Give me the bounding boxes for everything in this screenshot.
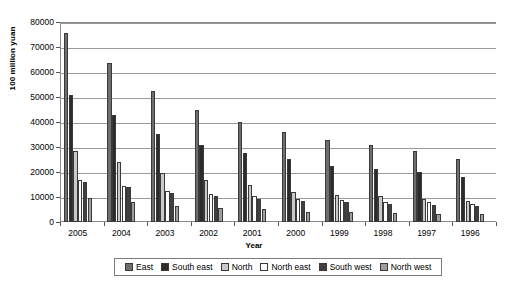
legend-swatch-icon [260,263,268,271]
bar-north-2002 [204,180,208,222]
bar-south-east-2003 [156,134,160,222]
legend-swatch-icon [161,263,169,271]
bar-north-west-1999 [349,212,353,222]
legend-item-south-east[interactable]: South east [161,262,213,272]
bar-south-east-2002 [199,145,203,222]
bar-south-west-2002 [214,196,218,222]
bar-north-east-1999 [340,200,344,222]
legend-label: North [232,262,253,272]
legend-swatch-icon [125,263,133,271]
bar-south-east-1996 [461,177,465,222]
bar-east-2002 [195,110,199,222]
legend-swatch-icon [380,263,388,271]
x-tick-label: 2003 [156,228,175,238]
bar-south-west-2001 [257,199,261,223]
bar-north-west-1996 [480,214,484,222]
legend-label: South east [172,262,213,272]
bar-north-east-2005 [78,180,82,223]
bar-north-east-2002 [209,194,213,223]
bar-north-west-1998 [393,213,397,222]
bar-north-west-2004 [131,202,135,222]
x-tick-label: 1997 [417,228,436,238]
legend-swatch-icon [319,263,327,271]
bar-south-east-2004 [112,115,116,222]
legend-item-north[interactable]: North [221,262,253,272]
x-tick-mark [234,222,235,226]
bar-south-east-1997 [417,172,421,223]
bar-chart: 100 million yuan 80000700006000050000400… [0,0,508,291]
bar-south-east-1998 [374,169,378,223]
x-tick-label: 2002 [199,228,218,238]
bar-north-2004 [117,162,121,223]
x-tick-label: 2001 [243,228,262,238]
x-tick-mark [60,222,61,226]
bar-south-east-1999 [330,166,334,222]
x-tick-label: 2000 [286,228,305,238]
x-tick-label: 2005 [68,228,87,238]
bar-east-2005 [64,33,68,222]
chart-legend: EastSouth eastNorthNorth eastSouth westN… [114,258,442,276]
bar-north-east-1998 [383,202,387,222]
bar-south-west-2003 [170,193,174,222]
x-tick-mark [278,222,279,226]
x-axis-title: Year [0,241,508,250]
bar-north-1998 [378,196,382,222]
bar-north-2003 [160,173,164,222]
y-tick-label: 50000 [10,93,54,101]
bar-north-2000 [291,192,295,222]
bar-north-east-2000 [296,199,300,223]
bar-north-west-2001 [262,209,266,222]
bar-north-east-2004 [122,186,126,222]
bar-north-2005 [73,151,77,222]
y-tick-label: 0 [10,218,54,226]
legend-label: North east [271,262,310,272]
bar-east-2004 [107,63,111,222]
y-tick-label: 10000 [10,193,54,201]
legend-label: East [136,262,153,272]
x-tick-mark [496,222,497,226]
legend-item-east[interactable]: East [125,262,153,272]
legend-label: South west [330,262,372,272]
bar-east-1999 [325,140,329,223]
x-tick-mark [452,222,453,226]
bar-north-1997 [422,199,426,222]
bar-south-west-2004 [126,187,130,222]
bar-north-2001 [248,185,252,222]
x-tick-label: 1999 [330,228,349,238]
bar-south-west-1997 [432,205,436,223]
bar-north-east-2003 [165,191,169,222]
bar-east-2003 [151,91,155,222]
bar-north-east-1997 [427,202,431,222]
bar-south-west-2000 [301,201,305,223]
bar-east-1996 [456,159,460,222]
legend-item-south-west[interactable]: South west [319,262,372,272]
y-tick-label: 20000 [10,168,54,176]
bar-south-east-2005 [69,95,73,223]
y-tick-label: 30000 [10,143,54,151]
y-tick-label: 60000 [10,68,54,76]
x-tick-label: 1998 [374,228,393,238]
y-tick-label: 70000 [10,43,54,51]
x-tick-mark [191,222,192,226]
bar-east-1998 [369,145,373,222]
bar-north-1999 [335,195,339,222]
bars-layer [60,22,496,222]
legend-item-north-west[interactable]: North west [380,262,432,272]
bar-north-east-1996 [470,204,474,223]
bar-north-west-2000 [306,212,310,223]
bar-south-west-1998 [388,204,392,222]
bar-east-2001 [238,122,242,223]
bar-north-east-2001 [252,196,256,222]
x-tick-mark [104,222,105,226]
bar-north-west-2005 [88,198,92,222]
legend-swatch-icon [221,263,229,271]
bar-east-1997 [413,151,417,222]
bar-south-west-2005 [83,182,87,222]
bar-north-1996 [466,201,470,222]
bar-north-west-2003 [175,206,179,222]
legend-item-north-east[interactable]: North east [260,262,310,272]
y-tick-label: 40000 [10,118,54,126]
bar-north-west-1997 [436,214,440,223]
legend-label: North west [391,262,432,272]
bar-south-west-1996 [475,206,479,222]
